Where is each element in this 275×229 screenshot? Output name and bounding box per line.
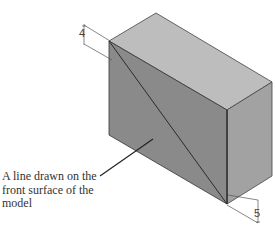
- callout-line-1: A line drawn on the: [2, 170, 102, 184]
- callout-text: A line drawn on the front surface of the…: [2, 170, 102, 211]
- section-label-5: 5: [254, 207, 260, 219]
- section-label-4: 4: [79, 27, 85, 39]
- section-marker-4: 4: [79, 24, 112, 60]
- callout-line-3: model: [2, 197, 102, 211]
- callout-line-2: front surface of the: [2, 184, 102, 198]
- diagram-canvas: 4 5 A line drawn on the front surface of…: [0, 0, 275, 229]
